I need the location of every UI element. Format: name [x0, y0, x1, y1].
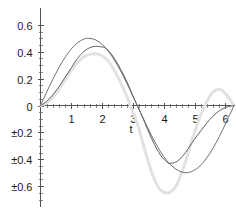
x-axis-label: t	[129, 123, 132, 135]
y-tick-label: 0.4	[17, 47, 32, 59]
y-tick-label: 0	[26, 101, 32, 113]
y-tick-label: ±0.2	[11, 127, 32, 139]
x-tick-label: 2	[99, 113, 105, 125]
plot-canvas: 123456 0.60.40.20±0.2±0.4±0.6 t	[0, 0, 236, 213]
y-tick-label: 0.6	[17, 20, 32, 32]
x-tick-label: 4	[161, 113, 167, 125]
x-tick-label: 1	[68, 113, 74, 125]
plot-figure: 123456 0.60.40.20±0.2±0.4±0.6 t	[0, 0, 236, 213]
y-tick-label: ±0.4	[11, 154, 32, 166]
y-tick-label: ±0.6	[11, 181, 32, 193]
y-tick-label: 0.2	[17, 74, 32, 86]
